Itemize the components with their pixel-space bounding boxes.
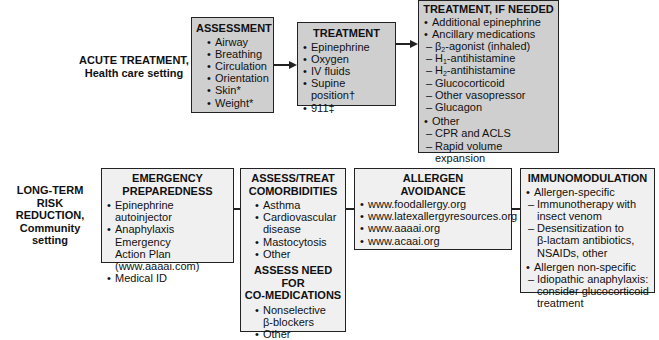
assessment-item: Circulation: [206, 60, 269, 72]
immuno-subitem-cont: treatment: [525, 297, 650, 309]
long-term-label: LONG-TERM RISK REDUCTION, Community sett…: [2, 184, 98, 247]
comedications-title-line2: CO-MEDICATIONS: [244, 289, 342, 302]
emergency-item-cont: (www.aaaai.com): [106, 260, 229, 272]
longterm-label-line4: Community setting: [2, 222, 98, 247]
emergency-item: Anaphylaxis Emergency: [106, 223, 229, 247]
comorbid-title-line1: ASSESS/TREAT: [244, 172, 342, 185]
comorbid-title-line2: COMORBIDITIES: [244, 185, 342, 198]
ancillary-item: Other vasopressor: [423, 89, 554, 101]
assessment-title: ASSESSMENT: [196, 22, 269, 35]
comorbid-item: Cardiovascular: [254, 211, 342, 223]
arrow-right-icon: [410, 40, 418, 48]
assessment-item: Airway: [206, 36, 269, 48]
avoidance-link[interactable]: www.latexallergyresources.org: [359, 210, 507, 222]
ancillary-item: Glucocorticoid: [423, 77, 554, 89]
comedication-item-cont: β-blockers: [254, 316, 342, 328]
treatment-item: 911‡: [302, 102, 391, 114]
comorbid-item: Other: [254, 248, 342, 260]
immuno-subitem-cont: consider glucocorticoid: [525, 285, 650, 297]
assessment-item: Orientation: [206, 72, 269, 84]
arrow-right-icon: [289, 61, 297, 69]
avoidance-title-line2: AVOIDANCE: [359, 185, 507, 198]
immunomodulation-box: IMMUNOMODULATION Allergen-specific Immun…: [520, 168, 655, 293]
treatment-item: Epinephrine: [302, 41, 391, 53]
treatment-if-needed-title: TREATMENT, IF NEEDED: [423, 3, 554, 16]
avoidance-link[interactable]: www.foodallergy.org: [359, 198, 507, 210]
emergency-preparedness-box: EMERGENCY PREPAREDNESS Epinephrine autoi…: [101, 168, 234, 263]
treatment-item: Supine position†: [302, 77, 391, 101]
treatment-box: TREATMENT Epinephrine Oxygen IV fluids S…: [297, 22, 396, 106]
immuno-item: Allergen non-specific: [525, 261, 650, 273]
immuno-subitem: Immunotherapy with: [525, 198, 650, 210]
avoidance-title: ALLERGEN AVOIDANCE: [359, 172, 507, 197]
avoidance-link[interactable]: www.acaai.org: [359, 235, 507, 247]
arrow-line: [274, 64, 289, 66]
comorbidities-title: ASSESS/TREAT COMORBIDITIES: [244, 172, 342, 197]
emergency-item-cont: Action Plan: [106, 248, 229, 260]
comedication-item: Other: [254, 328, 342, 340]
acute-treatment-label: ACUTE TREATMENT, Health care setting: [78, 54, 190, 79]
emergency-title: EMERGENCY PREPAREDNESS: [106, 172, 229, 197]
ancillary-item: H2-antihistamine: [423, 64, 554, 76]
comorbid-item: Mastocytosis: [254, 236, 342, 248]
longterm-label-line3: REDUCTION,: [2, 209, 98, 222]
if-needed-item: Ancillary medications: [423, 28, 554, 40]
acute-label-line2: Health care setting: [78, 67, 190, 80]
comorbid-item: Asthma: [254, 199, 342, 211]
treatment-if-needed-box: TREATMENT, IF NEEDED Additional epinephr…: [418, 0, 559, 153]
immuno-subitem-cont: insect venom: [525, 210, 650, 222]
immuno-subitem: Idiopathic anaphylaxis:: [525, 273, 650, 285]
comorbid-item-cont: disease: [254, 223, 342, 235]
other-item: Rapid volume expansion: [423, 140, 554, 164]
longterm-label-line2: RISK: [2, 197, 98, 210]
comedications-title: ASSESS NEED FOR CO-MEDICATIONS: [244, 264, 342, 302]
if-needed-item: Additional epinephrine: [423, 16, 554, 28]
other-item: CPR and ACLS: [423, 127, 554, 139]
treatment-title: TREATMENT: [302, 27, 391, 40]
comedication-item: Nonselective: [254, 304, 342, 316]
ancillary-item: H1-antihistamine: [423, 52, 554, 64]
treatment-item: IV fluids: [302, 65, 391, 77]
emergency-title-line1: EMERGENCY: [106, 172, 229, 185]
connector-line: [346, 208, 354, 210]
if-needed-item: Other: [423, 115, 554, 127]
assessment-item: Breathing: [206, 48, 269, 60]
immuno-subitem-cont: β-lactam antibiotics,: [525, 234, 650, 246]
avoidance-link[interactable]: www.aaaai.org: [359, 222, 507, 234]
assessment-box: ASSESSMENT Airway Breathing Circulation …: [191, 17, 274, 113]
arrow-line: [396, 43, 411, 45]
assessment-item: Weight*: [206, 97, 269, 109]
emergency-item: Epinephrine autoinjector: [106, 199, 229, 223]
emergency-item: Medical ID: [106, 272, 229, 284]
comedications-title-line1: ASSESS NEED FOR: [244, 264, 342, 289]
immuno-subitem: Desensitization to: [525, 222, 650, 234]
immuno-title: IMMUNOMODULATION: [525, 172, 650, 185]
acute-label-line1: ACUTE TREATMENT,: [78, 54, 190, 67]
emergency-title-line2: PREPAREDNESS: [106, 185, 229, 198]
ancillary-item: β2-agonist (inhaled): [423, 40, 554, 52]
assessment-item: Skin*: [206, 84, 269, 96]
comorbidities-box: ASSESS/TREAT COMORBIDITIES Asthma Cardio…: [240, 168, 346, 332]
immuno-item: Allergen-specific: [525, 186, 650, 198]
allergen-avoidance-box: ALLERGEN AVOIDANCE www.foodallergy.org w…: [354, 168, 512, 250]
ancillary-item: Glucagon: [423, 101, 554, 113]
longterm-label-line1: LONG-TERM: [2, 184, 98, 197]
avoidance-title-line1: ALLERGEN: [359, 172, 507, 185]
connector-line: [512, 208, 520, 210]
treatment-item: Oxygen: [302, 53, 391, 65]
immuno-subitem-cont: NSAIDs, other: [525, 247, 650, 259]
